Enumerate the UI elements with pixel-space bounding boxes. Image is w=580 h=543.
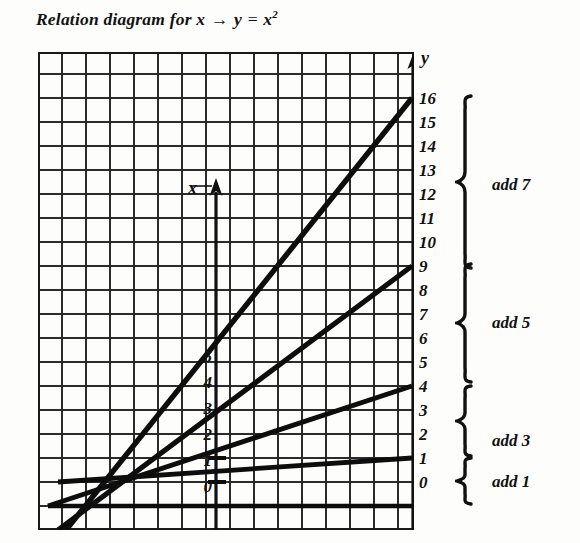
- figure-title: Relation diagram for x → y = x2: [36, 8, 278, 30]
- title-rhs-base: x: [263, 9, 272, 29]
- y-tick-label-2: 2: [419, 426, 453, 443]
- y-tick-label-11: 11: [419, 210, 453, 227]
- y-tick-label-8: 8: [419, 282, 453, 299]
- x-tick-label-5: 5: [196, 348, 212, 365]
- x-tick-label-0: 0: [196, 478, 212, 495]
- brace-add-3: [455, 384, 481, 458]
- y-tick-label-5: 5: [419, 354, 453, 371]
- title-var-y: y: [234, 9, 242, 29]
- y-tick-label-9: 9: [419, 258, 453, 275]
- brace-label-add-3: add 3: [492, 431, 530, 451]
- title-rhs-exponent: 2: [272, 8, 278, 20]
- y-tick-label-15: 15: [419, 114, 453, 131]
- y-tick-label-13: 13: [419, 162, 453, 179]
- y-tick-label-12: 12: [419, 186, 453, 203]
- brace-label-add-1: add 1: [492, 472, 530, 492]
- y-tick-label-7: 7: [419, 306, 453, 323]
- ray-x3-to-y9: [58, 266, 412, 530]
- x-tick-label-1: 1: [196, 452, 212, 469]
- brace-add-1: [455, 456, 481, 506]
- brace-label-add-7: add 7: [492, 175, 530, 195]
- x-axis-label: x: [188, 178, 197, 199]
- title-prefix: Relation diagram for: [36, 9, 192, 29]
- relation-diagram-figure: Relation diagram for x → y = x2: [0, 0, 580, 543]
- title-equals: =: [247, 9, 259, 29]
- brace-add-7: [455, 94, 481, 270]
- y-axis-label: y: [421, 48, 429, 69]
- brace-add-5: [455, 262, 481, 384]
- y-tick-label-4: 4: [419, 378, 453, 395]
- y-tick-label-16: 16: [419, 90, 453, 107]
- plot-area: [38, 52, 414, 530]
- x-tick-label-3: 3: [196, 400, 212, 417]
- y-tick-label-0: 0: [419, 474, 453, 491]
- y-tick-label-1: 1: [419, 450, 453, 467]
- y-tick-label-3: 3: [419, 402, 453, 419]
- title-arrow-icon: →: [210, 9, 230, 29]
- x-tick-label-4: 4: [196, 374, 212, 391]
- title-var-x: x: [196, 9, 205, 29]
- y-tick-label-10: 10: [419, 234, 453, 251]
- brace-label-add-5: add 5: [492, 313, 530, 333]
- y-tick-label-6: 6: [419, 330, 453, 347]
- x-tick-label-2: 2: [196, 426, 212, 443]
- y-tick-label-14: 14: [419, 138, 453, 155]
